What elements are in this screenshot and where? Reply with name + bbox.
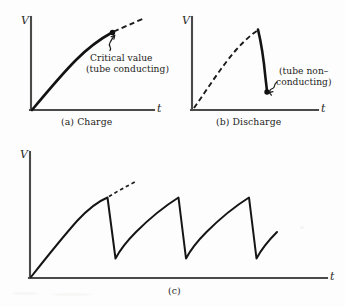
panel-a-annotation-line-2: (tube conducting)	[86, 64, 169, 75]
panel-b-caption: (b) Discharge	[216, 117, 281, 126]
panel-b-annotation-line-1: (tube non–	[279, 66, 328, 77]
panel-b-annotation-line-2: conducting)	[276, 77, 332, 88]
panel-a-extrapolation-dashed	[114, 18, 145, 32]
panel-a-caption: (a) Charge	[61, 117, 112, 126]
panel-b-annotation-arrowhead	[269, 92, 273, 96]
figure-container: V t Critical value (tube conducting) (a)…	[0, 0, 345, 307]
panel-b-group	[191, 17, 318, 110]
figure-vector-canvas	[0, 0, 345, 307]
panel-a-y-axis-label: V	[21, 15, 29, 26]
panel-c-extrapolation-dashed	[109, 182, 136, 197]
panel-b-x-axis-label: t	[321, 103, 325, 114]
panel-b-discharge-endpoint-dot	[264, 89, 269, 94]
panel-c-x-axis-label: t	[330, 271, 334, 282]
panel-b-y-axis-label: V	[182, 15, 190, 26]
panel-c-group	[29, 152, 327, 278]
panel-c-y-axis-label: V	[20, 149, 28, 160]
panel-b-charge-dashed	[194, 31, 258, 109]
panel-b-discharge-curve	[258, 30, 267, 92]
panel-a-annotation-line-1: Critical value	[90, 53, 153, 64]
panel-a-x-axis-label: t	[157, 103, 161, 114]
panel-c-caption: (c)	[168, 286, 181, 295]
panel-a-critical-value-dot	[110, 30, 115, 35]
panel-c-sawtooth-waveform	[31, 198, 277, 278]
